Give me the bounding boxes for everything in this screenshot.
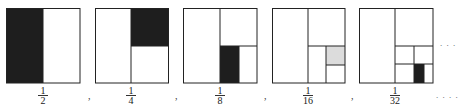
numerator: 1 [121,86,141,95]
ellipsis-top: . . . [440,38,456,48]
label-one-half: 1 2 [33,86,53,105]
separator-comma: , [264,90,267,101]
label-one-quarter: 1 4 [121,86,141,105]
numerator: 1 [385,86,405,95]
denominator: 2 [33,96,53,105]
separator-comma: , [175,90,178,101]
denominator: 16 [298,96,318,105]
label-one-thirty-second: 1 32 [385,86,405,105]
denominator: 32 [385,96,405,105]
label-one-sixteenth: 1 16 [298,86,318,105]
square-thirty-second [360,8,434,83]
square-sixteenth [273,8,346,83]
square-half [6,8,80,83]
shaded-region [220,46,239,83]
square-quarter [96,8,169,83]
label-one-eighth: 1 8 [210,86,230,105]
denominator: 4 [121,96,141,105]
separator-comma: , [88,90,91,101]
numerator: 1 [33,86,53,95]
denominator: 8 [210,96,230,105]
ellipsis-bottom: . . . . [436,90,459,100]
separator-comma: , [351,90,354,101]
shaded-region [131,8,168,46]
shaded-region [414,64,424,83]
shaded-region [6,8,43,83]
shaded-region [326,46,345,65]
square-eighth [184,8,258,83]
numerator: 1 [298,86,318,95]
numerator: 1 [210,86,230,95]
